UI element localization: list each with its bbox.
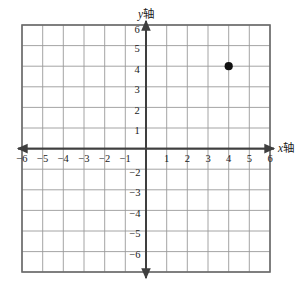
x-tick-label: −3 — [78, 153, 89, 164]
plotted-point — [225, 62, 233, 70]
y-tick-label: −6 — [129, 249, 140, 260]
y-tick-label: −2 — [129, 167, 140, 178]
x-axis-label-cjk: 轴 — [283, 141, 294, 154]
y-tick-label: 1 — [134, 125, 139, 136]
y-tick-label: 5 — [134, 43, 139, 54]
x-tick-label: 3 — [205, 153, 210, 164]
x-tick-label: 5 — [247, 153, 252, 164]
y-tick-label: 3 — [134, 84, 139, 95]
data-points — [225, 62, 233, 70]
x-tick-label: 1 — [164, 153, 169, 164]
x-tick-label: 2 — [185, 153, 190, 164]
x-tick-label: −6 — [16, 153, 27, 164]
x-tick-label: 4 — [226, 153, 232, 164]
x-tick-label: −1 — [120, 153, 131, 164]
y-tick-label: 2 — [134, 105, 139, 116]
y-tick-label: −4 — [129, 208, 141, 219]
y-tick-label: −5 — [129, 228, 140, 239]
y-tick-label: −3 — [129, 187, 140, 198]
figure-background — [0, 0, 299, 286]
x-axis-label: x轴 — [277, 141, 294, 154]
y-tick-label: 6 — [134, 24, 139, 35]
x-tick-label: −4 — [58, 153, 70, 164]
y-axis-label: y轴 — [137, 7, 154, 21]
x-tick-label: −2 — [99, 153, 110, 164]
x-tick-label: 6 — [267, 153, 272, 164]
x-tick-label: −5 — [37, 153, 48, 164]
y-axis-label-cjk: 轴 — [143, 7, 154, 20]
y-tick-label: 4 — [134, 64, 140, 75]
coordinate-plane-figure: −6 −5 −4 −3 −2 −1 1 2 3 4 5 6 6 5 4 3 2 … — [0, 0, 299, 286]
